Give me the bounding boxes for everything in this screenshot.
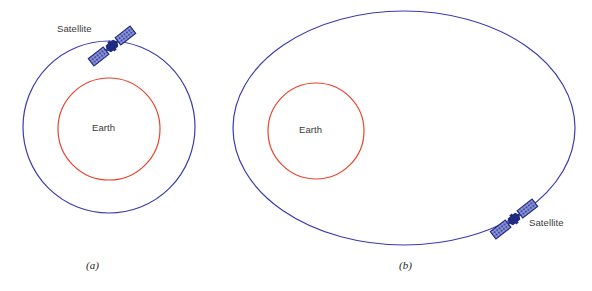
satellite-label: Satellite xyxy=(57,23,92,34)
satellite-icon xyxy=(88,26,135,66)
panel-b xyxy=(233,11,575,245)
panel-caption-a: (a) xyxy=(86,259,99,271)
panel-caption-b: (b) xyxy=(399,259,412,271)
satellite-label: Satellite xyxy=(529,217,564,228)
panel-a xyxy=(23,26,195,213)
orbit-diagram xyxy=(0,0,592,291)
earth-label: Earth xyxy=(92,122,115,133)
earth-label: Earth xyxy=(299,124,322,135)
